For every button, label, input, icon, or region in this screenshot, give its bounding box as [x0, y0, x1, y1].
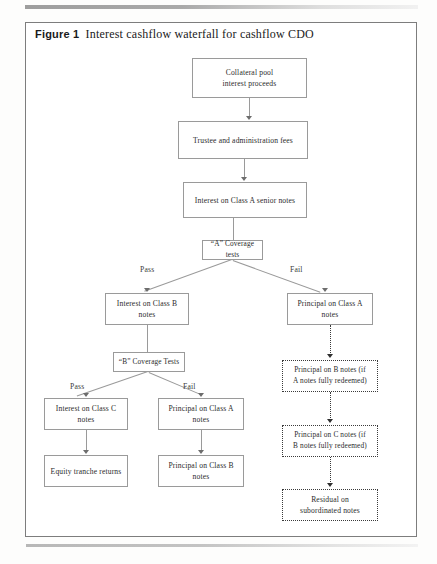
- arrowhead-interest-a: [241, 177, 247, 181]
- arrowhead-a-fail: [322, 288, 328, 292]
- connector-interest-a-coverage: [233, 218, 234, 240]
- scan-artifact-bottom: [26, 544, 418, 547]
- node-interest-class-c-label: Interest on Class Cnotes: [48, 403, 124, 425]
- node-principal-c-notes-conditional-label: Principal on C notes (ifB notes fully re…: [286, 430, 374, 451]
- node-interest-class-b-label: Interest on Class Bnotes: [109, 298, 185, 320]
- node-principal-class-a-mid-label: Principal on Class Anotes: [162, 403, 240, 425]
- figure-title: Interest cashflow waterfall for cashflow…: [86, 27, 314, 41]
- node-interest-class-a-senior: Interest on Class A senior notes: [183, 182, 307, 218]
- arrowhead-equity: [83, 450, 89, 454]
- connector-principal-a-principal-b: [201, 430, 202, 451]
- node-trustee-fees-label: Trustee and administration fees: [182, 135, 304, 146]
- node-principal-class-a-right: Principal on Class Anotes: [287, 293, 373, 325]
- node-principal-b-notes-conditional: Principal on B notes (ifA notes fully re…: [282, 360, 378, 392]
- connector-trustee-interest-a: [244, 159, 245, 178]
- node-interest-class-c: Interest on Class Cnotes: [44, 398, 128, 430]
- node-residual-subordinated-label: Residual onsubordinated notes: [286, 494, 374, 516]
- edge-label-b-fail: Fail: [183, 382, 196, 391]
- node-b-coverage-tests: “B” Coverage Tests: [113, 352, 185, 372]
- edge-label-a-pass: Pass: [140, 265, 154, 274]
- arrowhead-residual: [327, 483, 333, 487]
- arrowhead-b-fail: [198, 393, 204, 397]
- node-b-coverage-tests-label: “B” Coverage Tests: [117, 357, 181, 368]
- connector-interest-b-coverage: [147, 325, 148, 352]
- node-principal-b-notes-conditional-label: Principal on B notes (ifA notes fully re…: [286, 365, 374, 386]
- node-interest-class-b: Interest on Class Bnotes: [105, 293, 189, 325]
- node-equity-tranche-returns-label: Equity tranche returns: [48, 466, 124, 477]
- connector-interest-c-equity: [86, 430, 87, 451]
- node-collateral-pool: Collateral poolinterest proceeds: [192, 58, 307, 98]
- node-collateral-pool-label: Collateral poolinterest proceeds: [196, 67, 303, 89]
- node-equity-tranche-returns: Equity tranche returns: [44, 455, 128, 487]
- node-trustee-fees: Trustee and administration fees: [178, 121, 308, 159]
- node-principal-class-a-mid: Principal on Class Anotes: [158, 398, 244, 430]
- node-interest-class-a-senior-label: Interest on Class A senior notes: [187, 195, 303, 206]
- arrowhead-principal-b-dotted: [327, 354, 333, 358]
- arrowhead-b-pass: [83, 393, 89, 397]
- node-principal-class-a-right-label: Principal on Class Anotes: [291, 298, 369, 320]
- node-a-coverage-tests: “A” Coverage tests: [202, 240, 263, 260]
- connector-principal-a-to-b-dotted: [330, 325, 331, 355]
- arrowhead-trustee: [246, 116, 252, 120]
- node-principal-class-b-mid-label: Principal on Class Bnotes: [162, 460, 240, 482]
- node-a-coverage-tests-label: “A” Coverage tests: [206, 239, 259, 260]
- node-principal-c-notes-conditional: Principal on C notes (ifB notes fully re…: [282, 425, 378, 457]
- connector-b-to-c-dotted: [330, 392, 331, 420]
- edge-label-b-pass: Pass: [70, 382, 84, 391]
- figure-caption: Figure 1 Interest cashflow waterfall for…: [35, 27, 314, 42]
- figure-number: Figure 1: [35, 28, 79, 40]
- arrowhead-principal-c-dotted: [327, 419, 333, 423]
- node-principal-class-b-mid: Principal on Class Bnotes: [158, 455, 244, 487]
- connector-collateral-trustee: [249, 98, 250, 117]
- edge-label-a-fail: Fail: [290, 265, 303, 274]
- connector-c-to-residual-dotted: [330, 457, 331, 484]
- node-residual-subordinated: Residual onsubordinated notes: [282, 489, 378, 521]
- figure-page: Figure 1 Interest cashflow waterfall for…: [0, 0, 437, 564]
- arrowhead-a-pass: [144, 288, 150, 292]
- arrowhead-principal-b-mid: [198, 450, 204, 454]
- scan-artifact-top: [25, 5, 418, 9]
